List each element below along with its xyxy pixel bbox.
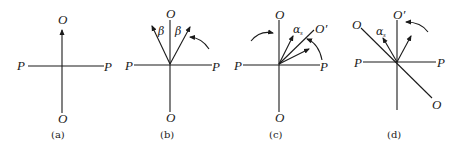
- label-p-left: P: [353, 55, 362, 70]
- label-alpha-subscript: s: [383, 31, 386, 39]
- label-beta-right: β: [174, 25, 181, 38]
- label-o-top: O: [58, 12, 68, 27]
- label-o-bottom: O: [58, 111, 68, 126]
- caption-a: (a): [51, 129, 65, 140]
- panel-d: O′ O O P P α s (d): [352, 7, 445, 140]
- caption-c: (c): [269, 129, 283, 140]
- label-p-left: P: [16, 58, 25, 73]
- caption-b: (b): [160, 129, 174, 140]
- polarization-diagram: O O P P (a) O O P P β β (b) O O P P O′ α…: [0, 0, 459, 151]
- label-p-right: P: [319, 59, 328, 74]
- label-o-upper-left: O: [352, 17, 362, 32]
- label-o-top: O: [166, 6, 176, 21]
- label-o-bottom: O: [166, 110, 176, 125]
- rotation-arrow: [190, 37, 209, 49]
- label-beta-left: β: [157, 25, 164, 38]
- caption-d: (d): [387, 129, 401, 140]
- label-p-right: P: [103, 59, 112, 74]
- rotation-arrow: [406, 22, 428, 32]
- vector-lower: [279, 49, 309, 64]
- label-p-right: P: [211, 59, 220, 74]
- label-p-left: P: [233, 58, 242, 73]
- label-o-prime-top: O′: [393, 7, 405, 22]
- vector-left: [383, 38, 397, 62]
- rotation-arrow-right: [307, 39, 322, 60]
- label-p-left: P: [124, 58, 133, 73]
- rotation-arrow-left: [251, 32, 273, 41]
- panel-b: O O P P β β (b): [124, 6, 220, 140]
- label-o-bottom: O: [275, 110, 285, 125]
- label-o-top: O: [275, 7, 285, 22]
- label-alpha-subscript: s: [300, 29, 303, 37]
- panel-a: O O P P (a): [16, 12, 112, 140]
- label-o-lower-right: O: [432, 97, 442, 112]
- label-p-right: P: [436, 55, 445, 70]
- vector-right: [397, 36, 411, 62]
- vector-upper: [279, 36, 293, 64]
- panel-c: O O P P O′ α s (c): [233, 7, 328, 140]
- label-o-prime: O′: [315, 21, 327, 36]
